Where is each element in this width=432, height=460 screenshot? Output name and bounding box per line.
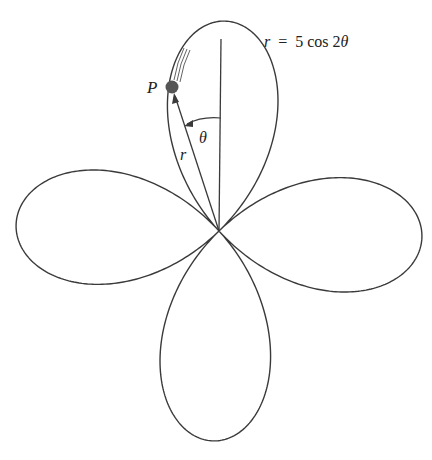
rose-curve bbox=[16, 21, 422, 441]
point-label: P bbox=[146, 78, 157, 97]
radius-arrowhead-icon bbox=[172, 93, 179, 104]
angle-label: θ bbox=[199, 129, 207, 146]
equation-lhs: r bbox=[264, 33, 271, 50]
equation-rhs: 5 cos 2 bbox=[295, 33, 340, 50]
radius-label: r bbox=[180, 146, 187, 163]
theta-arrowhead-icon bbox=[184, 120, 193, 127]
motion-lines bbox=[174, 48, 190, 82]
equation-label: r = 5 cos 2θ bbox=[264, 33, 349, 50]
equation-theta: θ bbox=[341, 33, 349, 50]
polar-rose-diagram: P θ r r = 5 cos 2θ bbox=[0, 0, 432, 460]
polar-axis-line bbox=[219, 39, 221, 231]
point-p-marker bbox=[166, 81, 179, 94]
equation-equals: = bbox=[278, 33, 287, 50]
